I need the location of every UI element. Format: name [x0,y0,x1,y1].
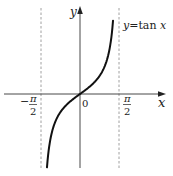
origin-label: 0 [82,98,88,109]
tan-graph: y x 0 − π 2 π 2 y=tan x [0,0,173,176]
tick-label-neg-pi-over-2: − π 2 [20,93,37,117]
function-annotation: y=tan x [122,19,167,32]
y-axis-label: y [69,5,77,19]
y-axis-arrow-icon [77,6,83,14]
x-axis-label: x [158,95,166,110]
plot-area: y x 0 − π 2 π 2 y=tan x [0,0,173,176]
func-x: x [160,19,167,32]
tick-label-pi-over-2: π 2 [123,93,131,117]
denominator: 2 [30,106,36,117]
func-eq: =tan [129,19,160,32]
denominator: 2 [124,106,130,117]
minus-sign: − [20,95,29,108]
pi-numerator: π [123,93,131,104]
pi-numerator: π [29,93,37,104]
